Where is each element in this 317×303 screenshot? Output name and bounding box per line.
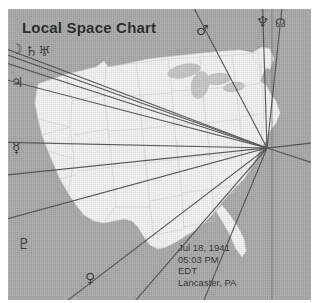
pluto-icon: ♇ [17, 237, 30, 252]
jupiter-icon: ♃ [11, 75, 24, 89]
chart-caption: Jul 18, 1941 05:03 PM EDT Lancaster, PA [178, 242, 236, 288]
page-title: Local Space Chart [22, 19, 156, 36]
caption-date: Jul 18, 1941 [178, 242, 236, 254]
chart-panel: Local Space Chart ☽ ♄ ♅ ♃ ☿ ♇ ♀ ♂ ♆ ☊ Ju… [8, 9, 311, 300]
neptune-icon: ♆ [256, 15, 269, 30]
moon-icon: ☽ [10, 42, 23, 56]
line-east-low [267, 148, 311, 169]
saturn-icon: ♄ [25, 44, 38, 58]
mercury-icon: ☿ [12, 141, 21, 155]
caption-time: 05:03 PM [178, 254, 236, 266]
caption-location: Lancaster, PA [178, 277, 236, 289]
caption-timezone: EDT [178, 265, 236, 277]
chart-svg [8, 9, 311, 300]
local-space-chart-screenshot: Local Space Chart ☽ ♄ ♅ ♃ ☿ ♇ ♀ ♂ ♆ ☊ Ju… [0, 0, 317, 303]
chart-canvas [8, 9, 311, 300]
mars-icon: ♂ [196, 23, 209, 37]
line-east [267, 141, 311, 148]
uranus-icon: ♅ [38, 44, 51, 58]
venus-icon: ♀ [85, 271, 95, 285]
north-node-icon: ☊ [275, 17, 286, 29]
